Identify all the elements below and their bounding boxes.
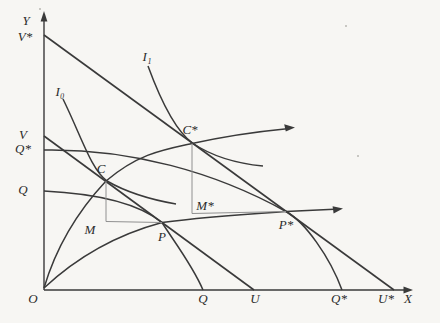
transformation-curve-QstarQstar	[44, 150, 342, 290]
economics-diagram: Y X O V* V Q* Q Q U Q* U* I₀ I₁ C C* P P…	[0, 0, 440, 323]
point-p-star-label: P*	[278, 217, 294, 232]
i0-curve-label: I₀	[55, 84, 65, 99]
u-star-label: U*	[378, 291, 394, 306]
q-star-x-label: Q*	[331, 291, 347, 306]
point-p-label: P	[157, 229, 166, 244]
figure-canvas: Y X O V* V Q* Q Q U Q* U* I₀ I₁ C C* P P…	[0, 0, 440, 323]
q-y-label: Q	[18, 182, 28, 197]
scan-speck	[39, 8, 41, 10]
q-star-y-label: Q*	[15, 141, 31, 156]
trade-triangle-MP-line	[106, 222, 162, 223]
v-label: V	[19, 127, 29, 142]
y-axis-arrow-icon	[41, 11, 48, 22]
q-x-label: Q	[198, 291, 208, 306]
scan-speck	[357, 155, 359, 157]
point-m-label: M	[84, 222, 97, 237]
point-c-label: C	[97, 161, 106, 176]
consumption-expansion-curve	[44, 129, 287, 288]
y-axis-label: Y	[22, 13, 31, 28]
consumption-curve-arrow-icon	[284, 124, 295, 131]
point-c-star-label: C*	[182, 122, 198, 137]
scan-speck	[345, 25, 347, 27]
v-star-label: V*	[18, 29, 33, 44]
point-m-star-label: M*	[195, 198, 214, 213]
transformation-curve-QQ	[44, 191, 203, 290]
x-axis-label: X	[403, 291, 413, 306]
i1-curve-label: I₁	[142, 49, 152, 64]
origin-label: O	[28, 291, 38, 306]
indifference-curve-I1	[148, 66, 263, 166]
u-label: U	[250, 291, 261, 306]
production-curve-arrow-icon	[333, 206, 343, 213]
